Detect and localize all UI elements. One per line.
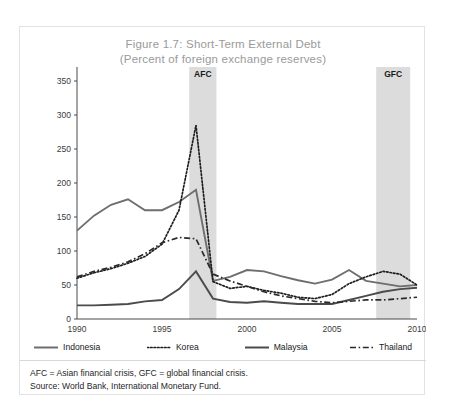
legend-swatch-korea <box>147 343 171 352</box>
footnote-abbreviations: AFC = Asian financial crisis, GFC = glob… <box>30 367 420 380</box>
figure-footnotes: AFC = Asian financial crisis, GFC = glob… <box>30 367 420 392</box>
legend-label-thailand: Thailand <box>379 342 412 352</box>
y-tick-label-200: 200 <box>57 178 71 188</box>
legend-label-indonesia: Indonesia <box>63 342 100 352</box>
x-tick-label-1990: 1990 <box>68 324 87 334</box>
legend-label-korea: Korea <box>176 342 199 352</box>
chart-legend: IndonesiaKoreaMalaysiaThailand <box>34 339 412 355</box>
footnote-source: Source: World Bank, International Moneta… <box>30 380 420 393</box>
legend-item-korea[interactable]: Korea <box>147 342 245 352</box>
y-tick-label-300: 300 <box>57 110 71 120</box>
legend-item-indonesia[interactable]: Indonesia <box>34 342 147 352</box>
crisis-band-label-gfc: GFC <box>384 69 402 79</box>
legend-swatch-indonesia <box>34 343 58 352</box>
legend-swatch-malaysia <box>245 343 269 352</box>
figure-panel: Figure 1.7: Short-Term External Debt (Pe… <box>19 26 425 395</box>
crisis-band-label-afc: AFC <box>194 69 211 79</box>
x-tick-label-1995: 1995 <box>153 324 172 334</box>
x-tick-label-2010: 2010 <box>408 324 426 334</box>
legend-item-malaysia[interactable]: Malaysia <box>245 342 350 352</box>
y-tick-label-50: 50 <box>62 280 72 290</box>
x-tick-label-2005: 2005 <box>323 324 342 334</box>
legend-swatch-thailand <box>350 343 374 352</box>
legend-item-thailand[interactable]: Thailand <box>350 342 412 352</box>
y-tick-label-250: 250 <box>57 144 71 154</box>
footnote-divider <box>20 360 426 361</box>
y-tick-label-0: 0 <box>66 314 71 324</box>
y-tick-label-100: 100 <box>57 246 71 256</box>
y-tick-label-150: 150 <box>57 212 71 222</box>
legend-label-malaysia: Malaysia <box>274 342 308 352</box>
y-tick-label-350: 350 <box>57 76 71 86</box>
series-line-korea <box>77 125 417 298</box>
x-tick-label-2000: 2000 <box>238 324 257 334</box>
series-line-indonesia <box>77 190 417 287</box>
crisis-band-gfc <box>376 67 410 319</box>
